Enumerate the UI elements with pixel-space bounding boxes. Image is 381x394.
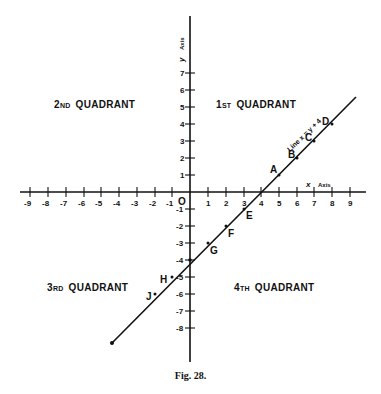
svg-text:-8: -8 <box>42 199 50 208</box>
quadrant-1-label: 1STQUADRANT <box>216 99 296 110</box>
svg-text:-4: -4 <box>176 256 184 265</box>
svg-text:4: 4 <box>180 120 185 129</box>
svg-text:8: 8 <box>330 199 335 208</box>
svg-text:J: J <box>146 291 152 302</box>
svg-text:H: H <box>160 274 167 285</box>
svg-text:-4: -4 <box>113 199 121 208</box>
svg-text:x: x <box>305 180 311 189</box>
svg-text:Axis: Axis <box>318 182 331 188</box>
svg-text:-3: -3 <box>176 239 184 248</box>
svg-text:B: B <box>288 149 295 160</box>
coordinate-diagram: -9 -8 -7 -6 -5 -4 -3 -2 -1 1 2 3 4 5 6 7… <box>0 0 381 394</box>
svg-text:-6: -6 <box>176 290 184 299</box>
svg-text:4: 4 <box>259 199 264 208</box>
svg-text:-1: -1 <box>176 205 184 214</box>
svg-text:E: E <box>246 210 253 221</box>
svg-text:D: D <box>322 116 329 127</box>
svg-text:-5: -5 <box>95 199 103 208</box>
quadrant-3-label: 3RDQUADRANT <box>47 282 128 293</box>
svg-text:-7: -7 <box>60 199 68 208</box>
svg-text:-9: -9 <box>24 199 32 208</box>
svg-text:2: 2 <box>224 199 229 208</box>
line-x-equals-y-plus-4 <box>111 97 356 344</box>
svg-text:1: 1 <box>206 199 211 208</box>
svg-text:-6: -6 <box>78 199 86 208</box>
svg-text:G: G <box>210 245 218 256</box>
svg-text:F: F <box>228 228 234 239</box>
svg-text:9: 9 <box>348 199 353 208</box>
quadrant-2-label: 2NDQUADRANT <box>54 99 135 110</box>
svg-text:3: 3 <box>180 137 185 146</box>
svg-text:5: 5 <box>277 199 282 208</box>
svg-text:7: 7 <box>312 199 317 208</box>
svg-text:-1: -1 <box>166 199 174 208</box>
quadrant-4-label: 4THQUADRANT <box>234 282 314 293</box>
svg-text:y: y <box>177 57 186 63</box>
y-axis-label: y Axis <box>177 37 186 63</box>
point-labels: A B C D E F G H J <box>146 116 329 302</box>
svg-text:6: 6 <box>295 199 300 208</box>
figure-caption: Fig. 28. <box>0 370 381 381</box>
svg-text:6: 6 <box>180 86 185 95</box>
svg-text:Axis: Axis <box>179 37 185 50</box>
svg-text:1: 1 <box>180 171 185 180</box>
svg-text:-7: -7 <box>176 307 184 316</box>
x-axis-label: x Axis <box>305 180 331 189</box>
svg-text:7: 7 <box>180 69 185 78</box>
svg-text:C: C <box>305 132 312 143</box>
svg-text:5: 5 <box>180 103 185 112</box>
svg-text:-8: -8 <box>176 324 184 333</box>
svg-text:A: A <box>270 164 277 175</box>
svg-text:2: 2 <box>180 154 185 163</box>
x-tick-labels: -9 -8 -7 -6 -5 -4 -3 -2 -1 1 2 3 4 5 6 7… <box>24 199 353 208</box>
line-end-dot <box>110 341 114 345</box>
svg-text:-2: -2 <box>149 199 157 208</box>
svg-text:-3: -3 <box>131 199 139 208</box>
svg-text:-2: -2 <box>176 222 184 231</box>
